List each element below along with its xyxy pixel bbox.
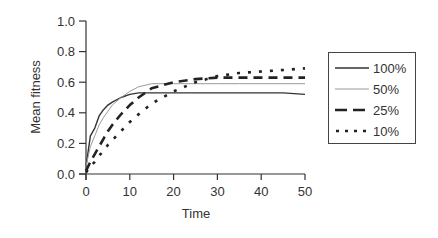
y-axis: 0.00.20.40.60.81.0 xyxy=(57,14,86,182)
y-axis-title: Mean fitness xyxy=(28,60,43,134)
y-tick-label: 0.4 xyxy=(57,105,75,120)
x-axis-title: Time xyxy=(182,206,210,221)
legend-item-10: 10% xyxy=(335,121,415,141)
x-tick-label: 40 xyxy=(254,184,268,199)
x-tick-label: 0 xyxy=(82,184,89,199)
legend-label: 50% xyxy=(373,82,399,97)
legend-item-50: 50% xyxy=(335,79,415,99)
legend-label: 25% xyxy=(373,103,399,118)
x-tick-label: 20 xyxy=(166,184,180,199)
x-tick-label: 30 xyxy=(210,184,224,199)
dotted-line-swatch-icon xyxy=(335,126,369,136)
x-tick-label: 10 xyxy=(123,184,137,199)
legend-item-25: 25% xyxy=(335,100,415,120)
x-tick-label: 50 xyxy=(298,184,312,199)
y-tick-label: 0.6 xyxy=(57,75,75,90)
legend-label: 100% xyxy=(373,61,406,76)
legend-item-100: 100% xyxy=(335,58,415,78)
y-tick-label: 1.0 xyxy=(57,14,75,29)
dashed-line-swatch-icon xyxy=(335,105,369,115)
y-tick-label: 0.0 xyxy=(57,167,75,182)
y-tick-label: 0.8 xyxy=(57,44,75,59)
series-layer xyxy=(86,68,305,172)
y-tick-label: 0.2 xyxy=(57,136,75,151)
solid-line-swatch-icon xyxy=(335,63,369,73)
legend: 100% 50% 25% 10% xyxy=(328,52,416,144)
x-axis: 01020304050 xyxy=(79,174,312,199)
series-line-25pct xyxy=(86,78,305,171)
series-line-100pct xyxy=(86,93,305,166)
series-line-50pct xyxy=(86,84,305,167)
thin-line-swatch-icon xyxy=(335,84,369,94)
legend-label: 10% xyxy=(373,124,399,139)
